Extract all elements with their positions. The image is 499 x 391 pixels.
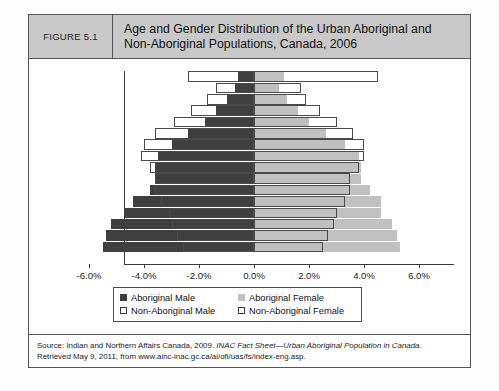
source-note: Source: Indian and Northern Affairs Cana… (29, 334, 470, 367)
bar-non-aboriginal-female (254, 162, 359, 173)
bar-non-aboriginal-male (141, 151, 254, 162)
x-axis-tick-label: 0.0% (243, 270, 265, 281)
bar-non-aboriginal-female (254, 208, 337, 219)
chart-legend: Aboriginal Male Aboriginal Female Non-Ab… (113, 287, 362, 322)
x-axis-tick (89, 264, 90, 268)
bar-non-aboriginal-male (216, 83, 255, 94)
x-axis-tick-label: 4.0% (353, 270, 375, 281)
bar-non-aboriginal-female (254, 173, 350, 184)
bar-non-aboriginal-female (254, 151, 364, 162)
figure-title-line-1: Age and Gender Distribution of the Urban… (124, 22, 432, 37)
x-axis-tick (364, 264, 365, 268)
bar-non-aboriginal-male (169, 208, 254, 219)
bar-non-aboriginal-female (254, 242, 323, 253)
source-line-1: Source: Indian and Northern Affairs Cana… (37, 341, 462, 352)
legend-swatch-aboriginal-female (238, 294, 245, 301)
bar-non-aboriginal-female (254, 196, 345, 207)
bar-non-aboriginal-male (207, 94, 254, 105)
legend-row-1: Aboriginal Male Aboriginal Female (120, 291, 355, 304)
legend-label-aboriginal-male: Aboriginal Male (131, 293, 195, 303)
bar-non-aboriginal-female (254, 71, 378, 82)
legend-swatch-aboriginal-male (120, 294, 127, 301)
source-prefix: Source: Indian and Northern Affairs Cana… (37, 341, 216, 350)
bar-non-aboriginal-male (161, 196, 255, 207)
bar-non-aboriginal-male (183, 242, 255, 253)
bar-non-aboriginal-male (150, 162, 255, 173)
bar-non-aboriginal-female (254, 185, 350, 196)
legend-item-aboriginal-male: Aboriginal Male (120, 293, 238, 303)
legend-swatch-non-aboriginal-female (238, 307, 245, 314)
figure-container: FIGURE 5.1 Age and Gender Distribution o… (28, 14, 471, 368)
x-axis-tick-label: -6.0% (77, 270, 102, 281)
x-axis-tick (144, 264, 145, 268)
x-axis-tick (419, 264, 420, 268)
bar-non-aboriginal-female (254, 94, 306, 105)
legend-label-non-aboriginal-male: Non-Aboriginal Male (131, 306, 215, 316)
x-axis-tick-label: -4.0% (132, 270, 157, 281)
bar-non-aboriginal-female (254, 128, 353, 139)
bar-non-aboriginal-female (254, 117, 337, 128)
x-axis-tick-label: 2.0% (298, 270, 320, 281)
bar-non-aboriginal-female (254, 83, 301, 94)
bar-non-aboriginal-male (188, 71, 254, 82)
bar-non-aboriginal-male (155, 173, 254, 184)
x-axis-tick (254, 264, 255, 268)
legend-label-non-aboriginal-female: Non-Aboriginal Female (249, 306, 344, 316)
x-axis-line (124, 264, 454, 265)
bar-non-aboriginal-female (254, 139, 364, 150)
legend-label-aboriginal-female: Aboriginal Female (249, 293, 324, 303)
legend-item-non-aboriginal-male: Non-Aboriginal Male (120, 306, 238, 316)
bar-non-aboriginal-female (254, 219, 334, 230)
bar-non-aboriginal-female (254, 230, 328, 241)
x-axis-tick-label: -2.0% (187, 270, 212, 281)
x-axis-tick-label: 6.0% (408, 270, 430, 281)
population-pyramid-plot: 75+70-7465-6960-6455-5950-5445-4940-4435… (29, 59, 470, 321)
legend-item-non-aboriginal-female: Non-Aboriginal Female (238, 306, 344, 316)
bar-non-aboriginal-male (191, 105, 254, 116)
bar-non-aboriginal-male (172, 219, 255, 230)
bar-non-aboriginal-male (144, 139, 254, 150)
source-period: . (420, 341, 422, 350)
source-publication-title: INAC Fact Sheet—Urban Aboriginal Populat… (216, 341, 419, 350)
source-line-2: Retrieved May 9, 2011, from www.ainc-ina… (37, 352, 462, 363)
bar-non-aboriginal-female (254, 105, 320, 116)
figure-header: FIGURE 5.1 Age and Gender Distribution o… (29, 15, 470, 59)
figure-title: Age and Gender Distribution of the Urban… (113, 15, 470, 58)
legend-row-2: Non-Aboriginal Male Non-Aboriginal Femal… (120, 304, 355, 317)
x-axis-tick (309, 264, 310, 268)
bar-non-aboriginal-male (155, 185, 254, 196)
figure-number: FIGURE 5.1 (29, 15, 113, 58)
chart-area: 75+70-7465-6960-6455-5950-5445-4940-4435… (29, 59, 470, 321)
legend-swatch-non-aboriginal-male (120, 307, 127, 314)
bar-non-aboriginal-male (177, 230, 254, 241)
figure-page: FIGURE 5.1 Age and Gender Distribution o… (0, 0, 499, 391)
bar-non-aboriginal-male (155, 128, 254, 139)
legend-item-aboriginal-female: Aboriginal Female (238, 293, 324, 303)
bar-non-aboriginal-male (174, 117, 254, 128)
figure-title-line-2: Non-Aboriginal Populations, Canada, 2006 (124, 37, 432, 52)
x-axis-tick (199, 264, 200, 268)
